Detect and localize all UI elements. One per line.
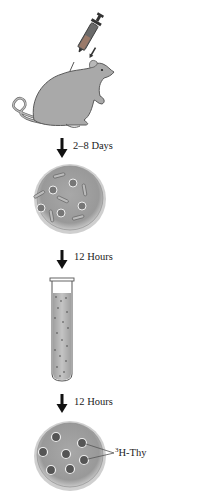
petri-dish-icon <box>34 421 114 491</box>
h-thy-label: H-Thy <box>119 447 147 458</box>
h-thy-annotation: 3H-Thy <box>115 446 147 458</box>
arrow-down-icon <box>57 250 68 269</box>
step-label-12-hours: 12 Hours <box>74 251 113 262</box>
step-label-12-hours: 12 Hours <box>74 396 113 407</box>
flow-diagram <box>0 0 222 499</box>
arrow-down-icon <box>57 138 68 158</box>
step-label-2-8-days: 2–8 Days <box>73 140 113 151</box>
test-tube-icon <box>50 278 74 381</box>
arrow-down-icon <box>57 394 68 413</box>
rat-icon <box>13 60 114 127</box>
petri-dish-icon <box>33 164 106 234</box>
